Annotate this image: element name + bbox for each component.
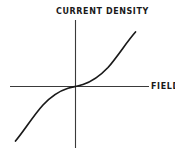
- x-axis-title: FIELD: [151, 83, 175, 91]
- plot-area: [0, 0, 175, 154]
- chart-figure: CURRENT DENSITY FIELD: [0, 0, 175, 154]
- y-axis-title: CURRENT DENSITY: [56, 8, 149, 16]
